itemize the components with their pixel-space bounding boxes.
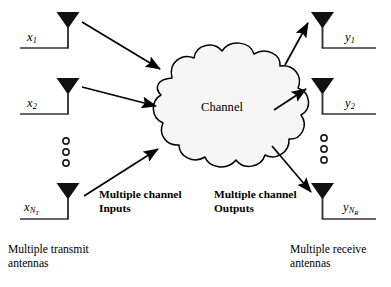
receive-label-2-sub: 2 — [351, 102, 355, 111]
output-arrow-1 — [285, 23, 308, 65]
output-annotation: Multiple channel Outputs — [214, 188, 297, 216]
receive-ellipsis — [321, 135, 327, 163]
receive-label-nr: yNR — [343, 200, 358, 215]
transmit-caption-line1: Multiple transmit — [8, 243, 89, 257]
output-arrow-3 — [272, 146, 311, 192]
transmit-label-nt: xNT — [24, 200, 39, 215]
transmit-caption-line2: antennas — [8, 257, 89, 271]
receive-label-1-sub: 1 — [351, 36, 355, 45]
output-annotation-line2: Outputs — [214, 202, 297, 216]
receive-caption: Multiple receive antennas — [290, 243, 366, 272]
channel-label: Channel — [201, 100, 243, 115]
receive-label-nr-sub: NR — [349, 206, 359, 215]
input-annotation-line2: Inputs — [99, 202, 182, 216]
receive-label-1: y1 — [345, 30, 355, 45]
transmit-label-2-sub: 2 — [33, 102, 37, 111]
input-annotation-line1: Multiple channel — [99, 188, 182, 202]
receive-label-nr-subsub: R — [354, 209, 358, 216]
input-arrows — [82, 22, 160, 196]
transmit-label-nt-subsub: T — [35, 209, 39, 216]
input-annotation: Multiple channel Inputs — [99, 188, 182, 216]
transmit-label-nt-sub: NT — [30, 206, 39, 215]
transmit-caption: Multiple transmit antennas — [8, 243, 89, 272]
transmit-label-1-sub: 1 — [33, 36, 37, 45]
input-arrow-1 — [82, 22, 160, 69]
receive-antenna-1 — [311, 12, 376, 48]
transmit-ellipsis — [63, 138, 69, 166]
receive-antenna-2 — [311, 78, 376, 114]
receive-caption-line2: antennas — [290, 257, 366, 271]
output-annotation-line1: Multiple channel — [214, 188, 297, 202]
transmit-label-2: x2 — [27, 96, 37, 111]
transmit-label-1: x1 — [27, 30, 37, 45]
receive-caption-line1: Multiple receive — [290, 243, 366, 257]
input-arrow-2 — [82, 87, 156, 106]
mimo-channel-figure: Channel x1 x2 xNT y1 y2 yNR Multiple cha… — [0, 0, 391, 287]
receive-label-2: y2 — [345, 96, 355, 111]
